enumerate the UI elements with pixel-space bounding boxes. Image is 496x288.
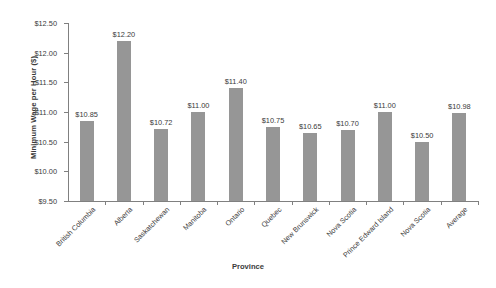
y-tick-mark: $10.00 (64, 171, 68, 172)
y-tick-label: $10.00 (34, 167, 57, 176)
y-tick-label: $12.50 (34, 19, 57, 28)
y-tick-mark: $11.50 (64, 82, 68, 83)
bar-value-label: $11.00 (374, 101, 396, 110)
bar-value-label: $11.00 (187, 101, 209, 110)
x-category-label: British Columbia (54, 205, 97, 248)
x-category-label: Nova Scotia (324, 205, 358, 239)
bar (266, 127, 280, 201)
y-tick-label: $11.50 (35, 78, 57, 87)
x-category-label: Saskatchewan (132, 205, 171, 244)
x-category-label: Ontario (223, 205, 246, 228)
bar (303, 133, 317, 201)
y-tick-mark: $12.50 (64, 23, 68, 24)
bar-value-label: $10.50 (411, 131, 434, 140)
bar-value-label: $10.70 (336, 119, 359, 128)
y-tick-mark: $10.50 (64, 142, 68, 143)
bar (80, 121, 94, 201)
bar-value-label: $10.65 (299, 122, 322, 131)
x-category-label: Quebec (259, 205, 283, 229)
x-category-label: Average (445, 205, 470, 230)
y-tick-label: $10.50 (34, 137, 57, 146)
x-category-label: Alberta (112, 205, 134, 227)
x-category-label: New Brunswick (280, 205, 321, 246)
bar-value-label: $10.98 (448, 102, 471, 111)
bar-value-label: $10.72 (150, 118, 173, 127)
y-tick-label: $11.00 (35, 108, 57, 117)
y-tick-label: $9.50 (39, 197, 58, 206)
bar (341, 130, 355, 201)
bar (229, 88, 243, 201)
x-axis-title: Province (0, 262, 496, 271)
bar-value-label: $12.20 (113, 30, 136, 39)
bar-value-label: $10.75 (262, 116, 285, 125)
y-tick-mark: $9.50 (64, 201, 68, 202)
x-category-label: Manitoba (182, 205, 209, 232)
bar (154, 129, 168, 201)
x-category-label: Nova Scotia (399, 205, 433, 239)
y-axis-line (68, 23, 69, 201)
bar-chart: Minimum Wage per Hour ($) $12.50$12.00$1… (0, 0, 496, 288)
y-tick-mark: $12.00 (64, 53, 68, 54)
bar-value-label: $10.85 (75, 110, 98, 119)
y-tick-label: $12.00 (34, 48, 57, 57)
y-tick-mark: $11.00 (64, 112, 68, 113)
bar-value-label: $11.40 (225, 77, 247, 86)
